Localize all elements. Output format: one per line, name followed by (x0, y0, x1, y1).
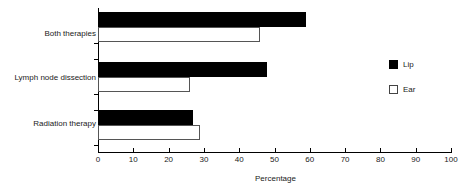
x-axis-tick-label: 30 (192, 155, 216, 165)
x-axis-tick (380, 148, 381, 153)
x-axis-tick-label: 80 (368, 155, 392, 165)
legend-label-lip: Lip (403, 60, 414, 69)
y-axis-tick (94, 43, 99, 44)
legend-label-ear: Ear (403, 85, 415, 94)
y-axis-tick (94, 94, 99, 95)
x-axis-tick-label: 90 (404, 155, 428, 165)
x-axis-tick-label: 40 (227, 155, 251, 165)
category-label-both-therapies: Both therapies (44, 29, 96, 39)
legend-item-lip: Lip (389, 59, 415, 70)
x-axis-title: Percentage (0, 174, 465, 183)
x-axis-tick-label: 100 (439, 155, 463, 165)
x-axis-tick (239, 148, 240, 153)
bar-ear-both-therapies (98, 27, 260, 42)
category-label-lymph-node-dissection: Lymph node dissection (14, 73, 96, 83)
open-square-icon (389, 85, 398, 94)
x-axis-tick (310, 148, 311, 153)
x-axis-tick (133, 148, 134, 153)
x-axis-tick-label: 10 (121, 155, 145, 165)
x-axis-tick (98, 148, 99, 153)
legend-item-ear: Ear (389, 84, 415, 95)
x-axis-tick-label: 60 (298, 155, 322, 165)
bar-lip-both-therapies (98, 12, 306, 27)
x-axis-tick (275, 148, 276, 153)
bar-ear-lymph-node-dissection (98, 77, 190, 92)
x-axis-tick (345, 148, 346, 153)
category-label-radiation-therapy: Radiation therapy (33, 119, 96, 129)
bar-lip-radiation-therapy (98, 110, 193, 125)
x-axis-tick (169, 148, 170, 153)
x-axis-tick-label: 20 (157, 155, 181, 165)
filled-square-icon (389, 60, 398, 69)
y-axis-tick (94, 145, 99, 146)
x-axis-tick-label: 50 (263, 155, 287, 165)
x-axis-tick-label: 0 (86, 155, 110, 165)
x-axis-tick (204, 148, 205, 153)
x-axis-tick (416, 148, 417, 153)
x-axis-title-text: Percentage (255, 174, 296, 183)
y-axis-tick (94, 59, 99, 60)
bar-chart: Both therapies Lymph node dissection Rad… (0, 0, 465, 193)
x-axis-tick (451, 148, 452, 153)
legend: Lip Ear (389, 59, 415, 109)
bar-lip-lymph-node-dissection (98, 62, 267, 77)
x-axis-tick-label: 70 (333, 155, 357, 165)
bar-ear-radiation-therapy (98, 125, 200, 140)
